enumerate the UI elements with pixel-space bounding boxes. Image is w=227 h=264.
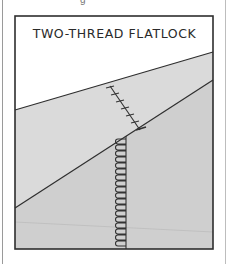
diagram-title: TWO-THREAD FLATLOCK xyxy=(15,26,214,41)
